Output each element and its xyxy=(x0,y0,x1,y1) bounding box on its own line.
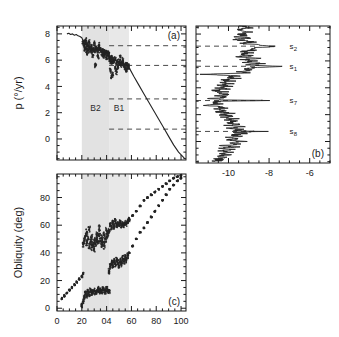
series-obliquity-scatter-mid-B2-density xyxy=(96,240,98,242)
series-obliquity-lower-track-density xyxy=(75,281,77,283)
series-obliquity-scatter-mid-B1-density xyxy=(110,226,112,228)
series-obliquity-scatter-low-B2-density xyxy=(107,286,109,288)
ytick-label-a-2: 4 xyxy=(45,82,50,92)
series-obliquity-scatter-mid-B2-density xyxy=(104,245,106,247)
series-obliquity-lower-track-density xyxy=(74,284,76,286)
series-obliquity-scatter-mid-B2-density xyxy=(104,233,106,235)
series-obliquity-scatter-low-B2-density xyxy=(103,287,105,289)
ytick-label-c-4: 80 xyxy=(40,193,50,203)
series-obliquity-scatter-mid-B1-density xyxy=(111,227,113,229)
series-obliquity-upper-branch-density xyxy=(154,190,156,192)
series-obliquity-scatter-mid-B2-density xyxy=(87,239,89,241)
series-obliquity-scatter-mid-B2-density xyxy=(83,243,85,245)
series-obliquity-scatter-low-B2-density xyxy=(107,290,109,292)
series-obliquity-scatter-low-B2-density xyxy=(105,293,107,295)
series-obliquity-lower-branch-density xyxy=(166,195,168,197)
series-obliquity-scatter-low-B1-density xyxy=(124,263,126,265)
series-precession-rate-scatter-B1-density xyxy=(112,57,114,59)
series-obliquity-scatter-mid-B1-density xyxy=(115,218,117,220)
series-obliquity-scatter-mid-B2-density xyxy=(96,235,98,237)
series-obliquity-scatter-mid-B2-density xyxy=(96,241,98,243)
panel-c-ylabel: Obliquity (deg) xyxy=(12,207,24,279)
series-obliquity-scatter-low-B2-density xyxy=(81,303,83,305)
series-obliquity-lower-branch-density xyxy=(158,205,160,207)
series-precession-rate-scatter-B1-density xyxy=(110,71,112,73)
series-obliquity-scatter-low-B1-density xyxy=(123,261,125,263)
series-obliquity-lower-branch-density xyxy=(139,232,141,234)
panel-a: B2B102468(a)p (°/yr) xyxy=(12,26,186,160)
series-precession-rate-scatter-B1-density xyxy=(129,68,131,70)
series-obliquity-scatter-mid-B1-density xyxy=(119,222,121,224)
series-obliquity-lower-branch-density xyxy=(128,252,130,254)
series-precession-rate-scatter-B1-density xyxy=(126,62,128,64)
series-precession-rate-scatter-B2-density xyxy=(83,44,85,46)
series-precession-rate-scatter-B2-density xyxy=(106,58,108,60)
series-obliquity-scatter-mid-B2-density xyxy=(106,236,108,238)
series-obliquity-scatter-low-B1-density xyxy=(113,258,115,260)
series-obliquity-scatter-mid-B1-density xyxy=(108,229,110,231)
series-precession-rate-scatter-B1-density xyxy=(108,57,110,59)
panel-b: s2s1s7s8-10-8-6(b) xyxy=(196,26,330,178)
series-obliquity-upper-branch-density xyxy=(158,188,160,190)
series-obliquity-scatter-low-B2-density xyxy=(103,289,105,291)
panel-c-id: (c) xyxy=(168,296,180,307)
series-obliquity-lower-branch-density xyxy=(165,193,167,195)
series-precession-rate-scatter-B1-density xyxy=(117,66,119,68)
series-precession-rate-scatter-B1-density xyxy=(121,57,123,59)
series-obliquity-upper-branch-density xyxy=(133,215,135,217)
series-obliquity-scatter-low-B1-density xyxy=(125,255,127,257)
series-precession-rate-scatter-B2-density xyxy=(99,42,101,44)
series-obliquity-scatter-low-B2-density xyxy=(94,288,96,290)
series-precession-rate-scatter-B1-density xyxy=(127,66,129,68)
series-precession-rate-scatter-B2-density xyxy=(91,46,93,48)
series-obliquity-scatter-low-B1-density xyxy=(119,265,121,267)
scientific-figure: B2B102468(a)p (°/yr)s2s1s7s8-10-8-6(b)02… xyxy=(0,0,339,337)
series-obliquity-scatter-mid-B2-density xyxy=(87,234,89,236)
series-obliquity-scatter-mid-B1-density xyxy=(108,232,110,234)
series-obliquity-scatter-mid-B2-density xyxy=(106,231,108,233)
series-obliquity-scatter-mid-B2-density xyxy=(94,237,96,239)
ytick-label-a-3: 6 xyxy=(45,55,50,65)
series-obliquity-scatter-low-B1-density xyxy=(114,266,116,268)
series-obliquity-scatter-mid-B2-density xyxy=(91,234,93,236)
series-precession-rate-scatter-B2-density xyxy=(86,46,88,48)
series-obliquity-scatter-low-B2-density xyxy=(99,288,101,290)
series-obliquity-scatter-mid-B2-density xyxy=(94,251,96,253)
series-obliquity-scatter-low-B1-density xyxy=(123,255,125,257)
series-precession-rate-scatter-B2-density xyxy=(89,45,91,47)
series-obliquity-scatter-mid-B2-density xyxy=(99,233,101,235)
series-obliquity-scatter-mid-B2-density xyxy=(98,235,100,237)
peak-label-s2: s xyxy=(289,42,293,51)
panel-b-id: (b) xyxy=(312,148,324,159)
series-obliquity-scatter-low-B1-density xyxy=(117,260,119,262)
series-precession-rate-scatter-B2-density xyxy=(99,48,101,50)
series-obliquity-scatter-low-B2-density xyxy=(93,290,95,292)
series-obliquity-lower-branch-density xyxy=(173,184,175,186)
series-precession-rate-scatter-B2-density xyxy=(89,42,91,44)
series-precession-rate-scatter-B2-density xyxy=(99,52,101,54)
series-obliquity-scatter-low-B2-density xyxy=(99,290,101,292)
series-obliquity-scatter-mid-B2-density xyxy=(104,238,106,240)
series-obliquity-scatter-mid-B2-density xyxy=(86,241,88,243)
series-obliquity-lower-branch-density xyxy=(177,180,179,182)
series-obliquity-scatter-low-B2-density xyxy=(104,291,106,293)
peak-label-sub-7: 7 xyxy=(294,100,298,106)
series-obliquity-scatter-mid-B1-density xyxy=(113,224,115,226)
series-precession-rate-scatter-B1-density xyxy=(111,73,113,75)
series-obliquity-scatter-low-B1-density xyxy=(119,261,121,263)
panel-a-ylabel: p (°/yr) xyxy=(12,76,24,109)
series-precession-rate-scatter-B1-density xyxy=(108,56,110,58)
series-precession-rate-scatter-B1-density xyxy=(110,77,112,79)
series-obliquity-scatter-mid-B2-density xyxy=(91,249,93,251)
series-obliquity-lower-track-density xyxy=(61,298,63,300)
series-precession-rate-scatter-B2-density xyxy=(87,41,89,43)
series-obliquity-scatter-low-B1-density xyxy=(109,268,111,270)
series-precession-rate-scatter-B2-density xyxy=(83,50,85,52)
series-obliquity-scatter-mid-B2-density xyxy=(93,242,95,244)
series-obliquity-scatter-low-B1-density xyxy=(108,268,110,270)
series-obliquity-scatter-mid-B2-density xyxy=(86,243,88,245)
series-obliquity-lower-track-density xyxy=(82,277,84,279)
series-precession-rate-scatter-B2-density xyxy=(105,53,107,55)
series-precession-rate-scatter-B1-density xyxy=(115,68,117,70)
series-obliquity-scatter-low-B2-density xyxy=(84,291,86,293)
